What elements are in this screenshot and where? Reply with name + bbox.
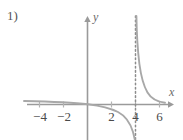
y-axis	[84, 16, 90, 140]
x-tick-label-2: 2	[105, 110, 118, 123]
x-tick-label-4: 4	[129, 110, 142, 123]
curve-right-branch	[136, 16, 165, 103]
graph-figure: 1) x y −4 −2 2 4 6	[0, 0, 183, 140]
x-tick-label-6: 6	[153, 110, 166, 123]
x-axis-arrowhead	[168, 101, 174, 107]
problem-number-label: 1)	[7, 9, 18, 22]
x-axis-label: x	[169, 86, 174, 98]
x-tick-label-minus4: −4	[30, 110, 50, 123]
x-tick-label-minus2: −2	[54, 110, 74, 123]
y-axis-label: y	[93, 11, 98, 23]
y-axis-arrowhead	[84, 16, 90, 22]
